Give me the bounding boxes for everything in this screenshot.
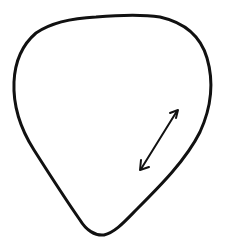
background bbox=[0, 0, 225, 248]
diagram-canvas bbox=[0, 0, 225, 248]
diagram-svg bbox=[0, 0, 225, 248]
